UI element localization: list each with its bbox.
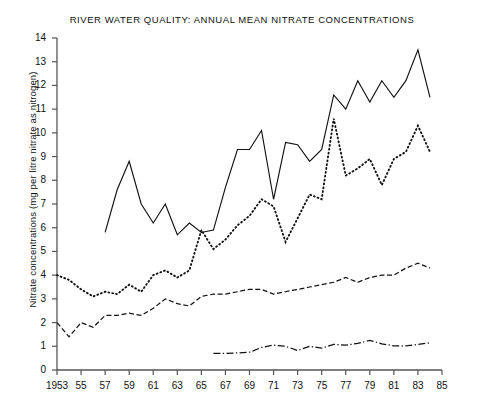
y-tick-label: 3 — [24, 293, 46, 304]
y-tick-label: 13 — [24, 56, 46, 67]
x-tick-label: 85 — [425, 380, 459, 391]
y-tick-label: 14 — [24, 32, 46, 43]
series-lower-dashed-series — [57, 263, 430, 337]
y-tick-label: 12 — [24, 79, 46, 90]
y-tick-label: 8 — [24, 174, 46, 185]
series-bottom-dashdot-series — [213, 340, 430, 353]
y-tick-label: 5 — [24, 245, 46, 256]
plot-area — [0, 0, 484, 409]
y-tick-label: 1 — [24, 340, 46, 351]
y-tick-label: 4 — [24, 269, 46, 280]
y-tick-label: 2 — [24, 317, 46, 328]
y-tick-label: 0 — [24, 364, 46, 375]
series-upper-solid-series — [105, 50, 430, 235]
nitrate-concentrations-chart: RIVER WATER QUALITY: ANNUAL MEAN NITRATE… — [0, 0, 484, 409]
y-tick-label: 9 — [24, 151, 46, 162]
y-tick-label: 6 — [24, 222, 46, 233]
y-tick-label: 7 — [24, 198, 46, 209]
axes — [52, 38, 442, 375]
series-layer — [57, 50, 430, 354]
y-tick-label: 11 — [24, 103, 46, 114]
y-tick-label: 10 — [24, 127, 46, 138]
series-middle-dotted-series — [57, 119, 430, 297]
